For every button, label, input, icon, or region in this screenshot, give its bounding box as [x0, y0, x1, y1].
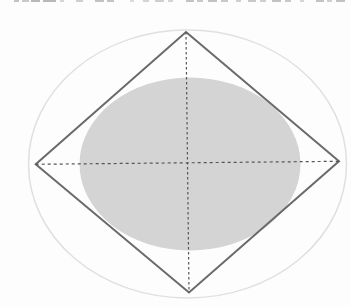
diagram-svg [0, 0, 351, 307]
diagram-canvas [0, 0, 351, 307]
figure-page [0, 0, 351, 307]
